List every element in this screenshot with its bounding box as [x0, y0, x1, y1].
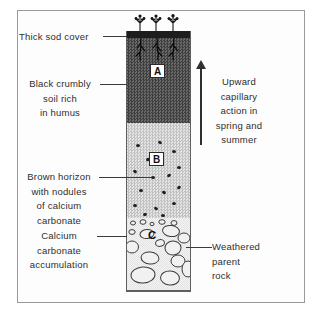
label-line: in humus — [16, 106, 104, 121]
label-line: Calcium — [14, 229, 104, 244]
label-line: Brown horizon — [14, 170, 104, 185]
upward-arrow-shaft — [200, 68, 202, 145]
horizon-c-layer — [127, 218, 190, 290]
nodule — [172, 150, 176, 153]
label-line: rock — [212, 269, 282, 284]
nodule — [172, 202, 176, 205]
label-line: parent — [212, 255, 282, 270]
horizon-c-tag: C — [148, 229, 156, 241]
label-line: Weathered — [212, 240, 282, 255]
nodule — [177, 166, 181, 169]
nodule — [139, 189, 143, 192]
label-line: carbonate — [14, 214, 104, 229]
soil-profile-figure: A B C Thick sod cover Black crumbly soil… — [0, 0, 316, 317]
label-thick-sod-cover: Thick sod cover — [19, 30, 104, 45]
leader-line-weathered — [186, 247, 212, 248]
sod-cover-band — [127, 31, 190, 38]
weathered-rocks-icon — [127, 218, 190, 290]
label-line: of calcium — [14, 199, 104, 214]
upward-arrow-icon — [196, 60, 206, 69]
label-line: Black crumbly — [16, 77, 104, 92]
label-line: summer — [203, 133, 275, 148]
horizon-a-layer — [127, 38, 190, 123]
nodule — [136, 144, 140, 147]
plant-roots-icon — [127, 38, 190, 66]
label-upward-capillary: Upward capillary action in spring and su… — [203, 75, 275, 148]
nodule — [151, 176, 155, 179]
label-line: Upward — [203, 75, 275, 90]
label-weathered-parent-rock: Weathered parent rock — [212, 240, 282, 284]
leader-line-sod — [103, 36, 127, 37]
plants-icon — [126, 13, 190, 31]
label-line: carbonate — [14, 244, 104, 259]
label-line: capillary — [203, 90, 275, 105]
label-line: with nodules — [14, 185, 104, 200]
horizon-b-tag: B — [149, 152, 164, 166]
label-line: spring and — [203, 119, 275, 134]
leader-line-black-crumbly — [100, 84, 127, 85]
leader-line-brown-horizon — [99, 177, 151, 178]
nodule — [161, 214, 165, 217]
label-line: soil rich — [16, 92, 104, 107]
label-line: accumulation — [14, 258, 104, 273]
label-brown-horizon: Brown horizon with nodules of calcium ca… — [14, 170, 104, 228]
label-black-crumbly: Black crumbly soil rich in humus — [16, 77, 104, 121]
nodule — [133, 204, 137, 207]
label-line: action in — [203, 104, 275, 119]
horizon-a-tag: A — [150, 64, 165, 78]
label-calcium-accumulation: Calcium carbonate accumulation — [14, 229, 104, 273]
